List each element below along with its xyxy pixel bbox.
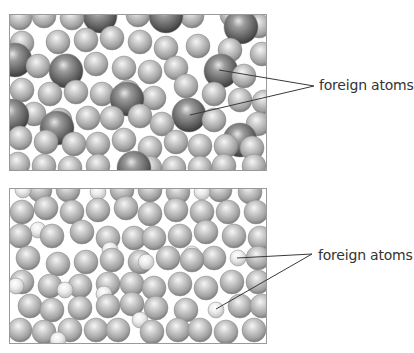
foreign-atom [57, 282, 73, 298]
host-atom [60, 6, 84, 30]
foreign-atoms-label-bottom: foreign atoms [318, 247, 413, 263]
host-atom [212, 154, 236, 178]
host-atom [8, 126, 32, 150]
host-atom [46, 30, 70, 54]
host-atom [162, 156, 186, 180]
host-atom [166, 318, 190, 342]
host-atom [40, 224, 64, 248]
host-atom [84, 52, 108, 76]
host-atom [56, 178, 80, 202]
host-atom [138, 202, 162, 226]
host-atom [228, 88, 252, 112]
host-atom [144, 296, 168, 320]
host-atom [180, 4, 204, 28]
host-atom [188, 134, 212, 158]
host-atom [194, 220, 218, 244]
host-atom [86, 198, 110, 222]
host-atom [106, 318, 130, 342]
foreign-atom [138, 254, 154, 270]
host-atom [174, 74, 198, 98]
host-atom [34, 130, 58, 154]
foreign-atom [194, 184, 210, 200]
host-atom [32, 154, 56, 178]
host-atom [208, 178, 232, 202]
host-atom [194, 276, 218, 300]
host-atom [112, 56, 136, 80]
host-atom [142, 226, 166, 250]
host-atom [74, 250, 98, 274]
host-atom [250, 294, 274, 318]
host-atom [34, 196, 58, 220]
host-atom [138, 178, 162, 202]
foreign-atom [15, 182, 31, 198]
foreign-atom [8, 278, 24, 294]
host-atom [76, 106, 100, 130]
host-atom [140, 320, 164, 344]
host-atom [46, 252, 70, 276]
panel-bottom-small-foreign-atoms [8, 178, 312, 348]
host-atom [100, 106, 124, 130]
foreign-atom [90, 184, 106, 200]
host-atom [164, 198, 188, 222]
host-atom [58, 156, 82, 180]
host-atom [190, 200, 214, 224]
panel-top-large-foreign-atoms [0, 0, 314, 185]
host-atom [244, 200, 268, 224]
host-atom [188, 318, 212, 342]
host-atom [128, 30, 152, 54]
host-atom [214, 320, 238, 344]
host-atom [32, 4, 56, 28]
host-atom [164, 130, 188, 154]
host-atom [114, 196, 138, 220]
host-atom [168, 272, 192, 296]
host-atom [64, 80, 88, 104]
host-atom [188, 156, 212, 180]
host-atom [202, 246, 226, 270]
host-atom [128, 104, 152, 128]
foreign-atom [208, 302, 224, 318]
host-atom [86, 154, 110, 178]
foreign-atom [117, 151, 151, 185]
host-atom [70, 220, 94, 244]
foreign-atom [172, 98, 206, 132]
atom-lattice-top [0, 0, 276, 185]
host-atom [156, 246, 180, 270]
host-atom [10, 200, 34, 224]
host-atom [180, 248, 204, 272]
host-atom [242, 154, 266, 178]
host-atom [8, 224, 32, 248]
host-atom [38, 82, 62, 106]
foreign-atoms-label-top: foreign atoms [319, 77, 414, 93]
host-atom [250, 42, 274, 66]
host-atom [62, 132, 86, 156]
host-atom [10, 78, 34, 102]
host-atom [96, 294, 120, 318]
host-atom [202, 82, 226, 106]
host-atom [26, 54, 50, 78]
foreign-atom [50, 332, 66, 348]
host-atom [216, 200, 240, 224]
host-atom [186, 34, 210, 58]
host-atom [40, 298, 64, 322]
host-atom [228, 294, 252, 318]
host-atom [16, 246, 40, 270]
host-atom [112, 128, 136, 152]
host-atom [100, 26, 124, 50]
host-atom [74, 28, 98, 52]
atom-lattice-bottom [8, 178, 274, 348]
host-atom [100, 248, 124, 272]
foreign-atom [0, 43, 32, 77]
host-atom [222, 224, 246, 248]
host-atom [8, 318, 32, 342]
host-atom [242, 318, 266, 342]
host-atom [18, 294, 42, 318]
host-atom [86, 132, 110, 156]
host-atom [84, 318, 108, 342]
host-atom [220, 270, 244, 294]
foreign-atom [149, 0, 183, 33]
host-atom [8, 6, 32, 30]
host-atom [168, 224, 192, 248]
host-atom [68, 296, 92, 320]
